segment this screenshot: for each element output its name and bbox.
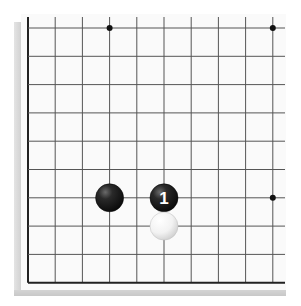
star-point-icon [270,195,276,201]
go-board-grid[interactable]: 1 [0,0,301,306]
move-number-label: 1 [159,189,168,208]
star-point-icon [107,25,113,31]
black-stone-icon [96,184,124,212]
white-stone[interactable] [150,212,178,240]
star-point-icon [270,25,276,31]
grid-lines [28,17,285,283]
black-stone[interactable]: 1 [150,184,178,212]
black-stone[interactable] [96,184,124,212]
white-stone-icon [150,212,178,240]
